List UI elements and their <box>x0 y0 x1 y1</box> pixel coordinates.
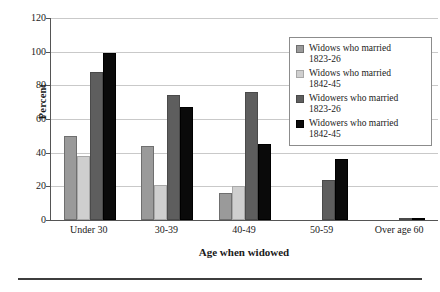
legend-swatch-icon <box>296 95 304 103</box>
y-tick-label: 0 <box>16 215 46 225</box>
y-tick-label: 40 <box>16 148 46 158</box>
bar[interactable] <box>77 156 90 220</box>
legend-swatch-icon <box>296 70 304 78</box>
y-tick-mark <box>46 153 50 154</box>
bar-chart-figure: Percent 020406080100120 Under 3030-3940-… <box>0 0 440 292</box>
bar[interactable] <box>103 53 116 220</box>
x-tick-label: 50-59 <box>283 224 361 235</box>
legend-swatch-icon <box>296 120 304 128</box>
bar[interactable] <box>335 159 348 220</box>
legend-label-line1: Widowers who married <box>309 118 398 129</box>
y-tick-mark <box>46 18 50 19</box>
y-tick-mark <box>46 186 50 187</box>
bar[interactable] <box>141 146 154 220</box>
bar-group <box>206 18 283 220</box>
legend-swatch-icon <box>296 45 304 53</box>
x-tick-label: Under 30 <box>50 224 128 235</box>
y-tick-mark <box>46 220 50 221</box>
y-tick-label: 20 <box>16 181 46 191</box>
legend-label-line1: Widows who married <box>309 68 391 79</box>
legend-label-line2: 1842-45 <box>309 129 398 140</box>
legend-label: Widows who married1842-45 <box>309 68 391 90</box>
x-axis-title: Age when widowed <box>50 246 438 258</box>
legend-label-line1: Widows who married <box>309 43 391 54</box>
bar[interactable] <box>258 144 271 220</box>
bar[interactable] <box>180 107 193 220</box>
bar[interactable] <box>232 186 245 220</box>
bar[interactable] <box>219 193 232 220</box>
y-tick-label: 80 <box>16 80 46 90</box>
legend-label-line1: Widowers who married <box>309 93 398 104</box>
legend-item[interactable]: Widows who married1842-45 <box>295 68 427 90</box>
bar[interactable] <box>90 72 103 220</box>
bar[interactable] <box>167 95 180 220</box>
footer-divider <box>18 278 422 280</box>
x-tick-label: 30-39 <box>128 224 206 235</box>
legend-label-line2: 1823-26 <box>309 54 391 65</box>
bar-group <box>128 18 205 220</box>
chart-legend: Widows who married1823-26Widows who marr… <box>289 37 432 146</box>
legend-label: Widowers who married1842-45 <box>309 118 398 140</box>
x-tick-label: Over age 60 <box>360 224 438 235</box>
bar[interactable] <box>399 218 412 220</box>
legend-item[interactable]: Widows who married1823-26 <box>295 43 427 65</box>
x-tick-label: 40-49 <box>205 224 283 235</box>
y-tick-mark <box>46 52 50 53</box>
bar[interactable] <box>154 185 167 220</box>
legend-item[interactable]: Widowers who married1842-45 <box>295 118 427 140</box>
y-tick-label: 100 <box>16 47 46 57</box>
y-tick-label: 60 <box>16 114 46 124</box>
bar[interactable] <box>245 92 258 220</box>
bar[interactable] <box>412 218 425 220</box>
y-tick-mark <box>46 119 50 120</box>
y-tick-mark <box>46 85 50 86</box>
legend-label: Widows who married1823-26 <box>309 43 391 65</box>
legend-label: Widowers who married1823-26 <box>309 93 398 115</box>
bar[interactable] <box>322 180 335 220</box>
legend-label-line2: 1842-45 <box>309 79 391 90</box>
y-tick-label: 120 <box>16 13 46 23</box>
legend-label-line2: 1823-26 <box>309 104 398 115</box>
bar-group <box>51 18 128 220</box>
plot-area-wrapper: Percent 020406080100120 Under 3030-3940-… <box>0 0 440 255</box>
x-axis-tick-labels: Under 3030-3940-4950-59Over age 60 <box>50 224 438 235</box>
legend-item[interactable]: Widowers who married1823-26 <box>295 93 427 115</box>
bar[interactable] <box>64 136 77 220</box>
y-axis-tick-labels: 020406080100120 <box>12 0 46 220</box>
